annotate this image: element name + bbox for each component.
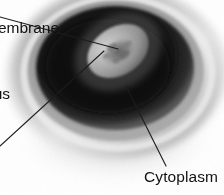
cell-membrane-label: Cell membrane <box>0 20 59 36</box>
nucleus-leader-line <box>0 51 104 146</box>
cell-diagram-figure: Cytoplasm Cell membrane Nucleus <box>0 0 224 195</box>
nucleus-label: Nucleus <box>0 86 10 102</box>
cytoplasm-leader-line <box>126 86 166 166</box>
cytoplasm-label: Cytoplasm <box>144 169 218 185</box>
